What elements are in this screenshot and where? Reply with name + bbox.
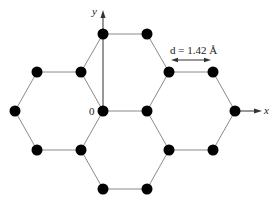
origin-label: 0	[89, 105, 95, 117]
carbon-atom-icon	[230, 106, 241, 117]
carbon-atom-icon	[142, 106, 153, 117]
bond-length-arrow-right-icon	[204, 58, 211, 62]
carbon-atom-icon	[32, 67, 43, 78]
y-axis-arrowhead-icon	[101, 10, 106, 18]
bonds-group	[15, 34, 235, 189]
carbon-atom-icon	[10, 106, 21, 117]
graphene-lattice-diagram: y x 0 d = 1.42 Å	[0, 0, 274, 205]
carbon-atom-icon	[32, 145, 43, 156]
bond-line	[81, 150, 103, 189]
bond-line	[147, 34, 169, 72]
bond-line	[213, 111, 235, 150]
bond-length-label: d = 1.42 Å	[170, 44, 217, 56]
carbon-atom-icon	[142, 29, 153, 40]
bond-line	[147, 150, 169, 189]
carbon-atom-icon	[164, 145, 175, 156]
carbon-atom-icon	[76, 67, 87, 78]
bond-line	[15, 72, 37, 111]
carbon-atom-icon	[208, 67, 219, 78]
carbon-atom-icon	[98, 106, 109, 117]
bond-line	[81, 34, 103, 72]
carbon-atom-icon	[208, 145, 219, 156]
carbon-atom-icon	[98, 29, 109, 40]
bond-line	[147, 72, 169, 111]
bond-line	[15, 111, 37, 150]
bond-line	[147, 111, 169, 150]
carbon-atom-icon	[98, 184, 109, 195]
x-axis-arrowhead-icon	[254, 109, 262, 114]
carbon-atom-icon	[142, 184, 153, 195]
carbon-atom-icon	[76, 145, 87, 156]
carbon-atom-icon	[164, 67, 175, 78]
x-axis-label: x	[263, 104, 269, 116]
bond-length-arrow-left-icon	[171, 58, 178, 62]
bond-line	[213, 72, 235, 111]
y-axis-label: y	[91, 5, 97, 17]
